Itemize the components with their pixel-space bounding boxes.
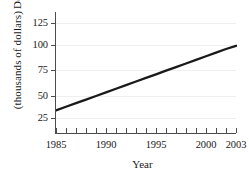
x-tick-mark-1985 xyxy=(56,128,57,133)
x-tick-mark-1991 xyxy=(116,128,117,133)
x-tick-mark-1999 xyxy=(196,128,197,133)
x-tick-label-1985: 1985 xyxy=(36,139,76,150)
x-tick-mark-1997 xyxy=(176,128,177,133)
x-tick-mark-1990 xyxy=(106,128,107,133)
y-tick-label-125: 125 xyxy=(8,18,48,28)
y-tick-label-25: 25 xyxy=(8,113,48,123)
x-tick-mark-1989 xyxy=(96,128,97,133)
x-tick-mark-1987 xyxy=(76,128,77,133)
x-tick-label-2003: 2003 xyxy=(216,139,249,150)
x-tick-mark-1988 xyxy=(86,128,87,133)
y-tick-label-75: 75 xyxy=(8,65,48,75)
x-tick-mark-1998 xyxy=(186,128,187,133)
x-tick-mark-2000 xyxy=(206,128,207,133)
y-axis-line xyxy=(55,12,56,134)
y-axis-title-main: Debt xyxy=(12,0,24,9)
x-axis-line xyxy=(55,133,236,134)
x-tick-mark-1992 xyxy=(126,128,127,133)
y-tick-mark-75 xyxy=(51,70,56,71)
x-tick-label-1995: 1995 xyxy=(136,139,176,150)
y-tick-mark-100 xyxy=(51,45,56,46)
x-tick-mark-1994 xyxy=(146,128,147,133)
x-tick-mark-2001 xyxy=(216,128,217,133)
x-tick-mark-1996 xyxy=(166,128,167,133)
x-tick-mark-2003 xyxy=(236,128,237,133)
x-tick-label-1990: 1990 xyxy=(86,139,126,150)
x-axis-title-text: Year xyxy=(132,158,152,170)
x-tick-mark-1986 xyxy=(66,128,67,133)
y-tick-mark-125 xyxy=(51,23,56,24)
x-tick-mark-2002 xyxy=(226,128,227,133)
y-tick-mark-25 xyxy=(51,118,56,119)
x-tick-mark-1993 xyxy=(136,128,137,133)
y-tick-label-100: 100 xyxy=(8,40,48,50)
x-axis-title: Year xyxy=(0,158,249,170)
x-tick-mark-1995 xyxy=(156,128,157,133)
y-tick-label-50: 50 xyxy=(8,91,48,101)
plot-area xyxy=(56,12,236,133)
y-tick-mark-50 xyxy=(51,96,56,97)
debt-vs-year-line-chart: (thousands of dollars) Debt 125 100 75 5… xyxy=(0,0,249,181)
debt-series-line xyxy=(56,12,236,133)
